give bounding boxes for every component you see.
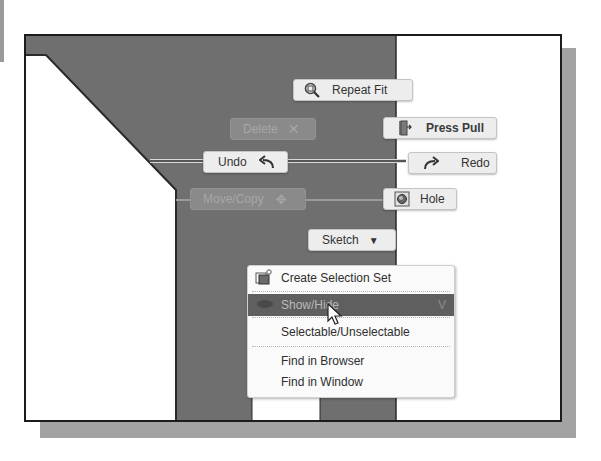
redo-label: Redo — [461, 156, 490, 170]
menu-separator — [252, 291, 450, 292]
menu-item-create-selection-set[interactable]: Create Selection Set — [248, 266, 454, 290]
hole-icon — [394, 191, 410, 207]
eye-icon — [256, 298, 274, 312]
menu-separator — [252, 346, 450, 347]
frame-shadow-bottom — [40, 422, 576, 438]
press-pull-icon — [396, 119, 414, 137]
delete-label: Delete — [243, 122, 278, 136]
redo-arrow-icon — [423, 156, 439, 170]
move-copy-label: Move/Copy — [203, 192, 264, 206]
sketch-button[interactable]: Sketch ▼ — [308, 229, 396, 251]
menu-item-label: Find in Window — [281, 375, 363, 389]
menu-item-label: Find in Browser — [281, 354, 364, 368]
zoom-fit-icon — [302, 82, 322, 98]
menu-item-show-hide[interactable]: Show/Hide V — [248, 294, 454, 316]
menu-item-label: Create Selection Set — [281, 271, 391, 285]
menu-separator — [252, 317, 450, 318]
frame-shadow-right — [562, 48, 576, 438]
redo-button[interactable]: Redo — [408, 152, 497, 174]
menu-item-find-in-window[interactable]: Find in Window — [248, 371, 454, 392]
move-copy-button[interactable]: Move/Copy ✥ — [190, 188, 306, 210]
edge-fragment — [0, 0, 4, 62]
hole-button[interactable]: Hole — [383, 188, 457, 210]
repeat-fit-button[interactable]: Repeat Fit — [293, 79, 413, 101]
sketch-label: Sketch — [322, 233, 359, 247]
press-pull-label: Press Pull — [426, 121, 484, 135]
undo-label: Undo — [218, 155, 247, 169]
selection-set-icon — [255, 269, 273, 288]
mouse-cursor-icon — [327, 303, 343, 331]
menu-item-find-in-browser[interactable]: Find in Browser — [248, 350, 454, 371]
press-pull-button[interactable]: Press Pull — [383, 117, 497, 139]
hole-label: Hole — [420, 192, 445, 206]
menu-item-label: Selectable/Unselectable — [281, 325, 410, 339]
menu-item-selectable-unselectable[interactable]: Selectable/Unselectable — [248, 319, 454, 344]
undo-button[interactable]: Undo — [203, 151, 288, 173]
shortcut-label: V — [438, 298, 446, 312]
delete-button[interactable]: Delete ✕ — [230, 118, 316, 140]
repeat-fit-label: Repeat Fit — [332, 83, 387, 97]
dropdown-triangle-icon: ▼ — [369, 235, 379, 246]
context-menu: Create Selection Set Show/Hide V Selecta… — [247, 265, 455, 398]
undo-arrow-icon — [259, 155, 275, 169]
move-arrows-icon: ✥ — [276, 192, 287, 207]
delete-x-icon: ✕ — [288, 121, 300, 137]
